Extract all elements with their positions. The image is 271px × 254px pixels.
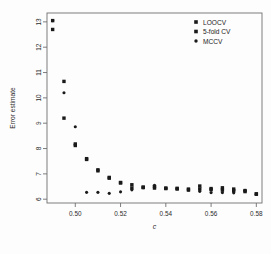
data-point xyxy=(108,192,111,195)
data-point xyxy=(119,181,122,184)
data-point xyxy=(142,186,145,189)
data-point xyxy=(62,80,65,83)
legend-label-5-fold-cv: 5-fold CV xyxy=(203,28,231,35)
x-tick-label: 0.58 xyxy=(250,210,263,217)
y-tick-label: 6 xyxy=(36,197,43,201)
data-point xyxy=(153,186,156,189)
x-tick-label: 0.54 xyxy=(160,210,173,217)
data-point xyxy=(164,187,167,190)
data-point xyxy=(243,189,246,192)
data-point xyxy=(85,191,88,194)
data-point xyxy=(51,19,54,22)
data-point xyxy=(74,125,77,128)
y-tick-label: 11 xyxy=(36,69,43,76)
series-5-fold-cv xyxy=(51,19,258,196)
data-point xyxy=(74,142,77,145)
y-tick-label: 10 xyxy=(36,94,43,102)
x-tick-label: 0.56 xyxy=(205,210,218,217)
x-tick-label: 0.50 xyxy=(69,210,82,217)
legend-marker-loocv xyxy=(194,20,198,24)
data-point xyxy=(187,188,190,191)
data-point xyxy=(221,186,224,189)
data-point xyxy=(119,190,122,193)
y-tick-label: 13 xyxy=(36,18,43,26)
y-tick-label: 7 xyxy=(36,172,43,176)
data-point xyxy=(85,157,88,160)
data-point xyxy=(232,191,235,194)
data-point xyxy=(198,184,201,187)
data-point xyxy=(51,28,54,31)
chart-figure: 0.500.520.540.560.58678910111213cError e… xyxy=(0,0,271,254)
data-point xyxy=(255,193,258,196)
legend-label-loocv: LOOCV xyxy=(203,19,227,26)
data-point xyxy=(96,168,99,171)
data-point xyxy=(176,187,179,190)
legend-marker-5-fold-cv xyxy=(194,30,198,34)
y-tick-label: 12 xyxy=(36,43,43,51)
y-tick-label: 8 xyxy=(36,146,43,150)
data-point xyxy=(209,187,212,190)
data-point xyxy=(198,190,201,193)
y-axis-title: Error estimate xyxy=(9,87,16,129)
series-loocv xyxy=(51,28,258,196)
data-point xyxy=(130,183,133,186)
data-point xyxy=(108,176,111,179)
plot-frame xyxy=(47,13,262,203)
x-axis-title: c xyxy=(153,223,157,230)
data-point xyxy=(62,116,65,119)
x-tick-label: 0.52 xyxy=(114,210,127,217)
scatter-plot: 0.500.520.540.560.58678910111213cError e… xyxy=(0,0,271,254)
data-point xyxy=(62,91,65,94)
legend-marker-mccv xyxy=(194,39,197,42)
data-point xyxy=(96,191,99,194)
data-point xyxy=(232,187,235,190)
legend-label-mccv: MCCV xyxy=(203,38,223,45)
series-mccv xyxy=(51,19,258,196)
data-point xyxy=(130,188,133,191)
data-point xyxy=(210,191,213,194)
y-tick-label: 9 xyxy=(36,121,43,125)
data-point xyxy=(153,184,156,187)
data-point xyxy=(221,191,224,194)
